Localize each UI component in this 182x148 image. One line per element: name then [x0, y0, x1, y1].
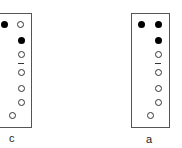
open-dot-icon: [155, 85, 162, 92]
panel-c: [0, 13, 32, 128]
filled-dot-icon: [1, 21, 8, 28]
panel-label: a: [146, 134, 152, 145]
open-dot-icon: [18, 69, 25, 76]
filled-dot-icon: [155, 37, 162, 44]
panel-a: [131, 13, 170, 128]
filled-dot-icon: [138, 21, 145, 28]
dash-mark: [155, 63, 161, 64]
open-dot-icon: [155, 99, 162, 106]
filled-dot-icon: [18, 37, 25, 44]
open-dot-icon: [155, 51, 162, 58]
open-dot-icon: [9, 112, 16, 119]
panel-label: c: [9, 133, 15, 144]
dash-mark: [18, 63, 24, 64]
open-dot-icon: [18, 99, 25, 106]
open-dot-icon: [18, 85, 25, 92]
open-dot-icon: [155, 69, 162, 76]
filled-dot-icon: [155, 21, 162, 28]
open-dot-icon: [18, 51, 25, 58]
open-dot-icon: [147, 112, 154, 119]
open-dot-icon: [17, 21, 24, 28]
